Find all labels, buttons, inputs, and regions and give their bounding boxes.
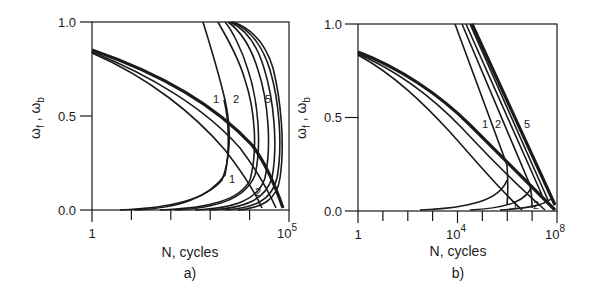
panel-caption: a) [184, 265, 196, 281]
y-axis-title: ωf , ωb [293, 97, 312, 139]
panel-b: 1.0 0.5 0.0 1 104 108 N, cycles b) ωf , … [293, 17, 565, 281]
panel-caption: b) [452, 265, 464, 281]
x-axis-title: N, cycles [162, 244, 219, 260]
curve-label: 1 [229, 173, 235, 185]
x-tick-label: 1 [354, 227, 361, 242]
x-tick-label: 105 [277, 222, 297, 241]
x-tick-label: 108 [545, 223, 565, 242]
y-tick-label: 0.0 [58, 203, 76, 218]
x-tick-label: 1 [88, 226, 95, 241]
curve-label: 2 [495, 118, 501, 130]
x-axis-title: N, cycles [430, 243, 487, 259]
y-tick-label: 1.0 [324, 17, 342, 32]
y-tick-label: 0.5 [58, 109, 76, 124]
y-axis-title: ωf , ωb [27, 97, 46, 139]
omega-b-curves-b [420, 24, 555, 210]
curve-label: 2 [233, 93, 239, 105]
x-tick-label: 104 [446, 223, 466, 242]
figure: 1.0 0.5 0.0 1 105 N, cycles a) ωf , ωb [0, 0, 594, 295]
curve-label: 2 [533, 199, 539, 211]
curve-label: 1 [512, 199, 518, 211]
y-tick-label: 1.0 [58, 15, 76, 30]
omega-f-curves-b [358, 52, 555, 210]
panel-a: 1.0 0.5 0.0 1 105 N, cycles a) ωf , ωb [27, 15, 297, 281]
y-tick-label: 0.0 [324, 204, 342, 219]
curve-label: 2 [255, 186, 261, 198]
y-tick-label: 0.5 [324, 110, 342, 125]
curve-label: 5 [524, 118, 530, 130]
curve-label: 1 [482, 118, 488, 130]
omega-b-curves-a [120, 22, 282, 210]
curve-label: 5 [265, 93, 271, 105]
curve-label: 1 [213, 93, 219, 105]
